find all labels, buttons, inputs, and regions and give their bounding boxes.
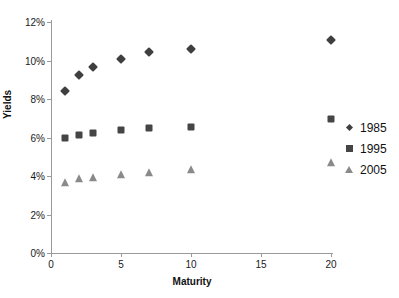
data-point-1995	[90, 129, 97, 136]
y-tick-label: 2%	[31, 209, 45, 220]
y-tick-mark	[47, 61, 51, 62]
y-tick-mark	[47, 22, 51, 23]
x-tick-mark	[191, 253, 192, 257]
y-tick-label: 0%	[31, 248, 45, 259]
data-point-1995	[118, 126, 125, 133]
data-point-2005	[89, 173, 97, 181]
y-tick-label: 4%	[31, 171, 45, 182]
scatter-chart: 0%2%4%6%8%10%12% 05101520 Yields Maturit…	[0, 0, 399, 298]
x-tick-mark	[51, 253, 52, 257]
y-tick-label: 12%	[25, 17, 45, 28]
data-point-1985	[186, 44, 196, 54]
data-point-1985	[60, 86, 70, 96]
legend: 198519952005	[343, 117, 387, 180]
plot-area: 0%2%4%6%8%10%12% 05101520	[51, 22, 331, 253]
y-tick-mark	[47, 215, 51, 216]
legend-swatch-shape	[345, 166, 353, 173]
data-point-1995	[62, 135, 69, 142]
y-axis-title: Yields	[2, 90, 13, 119]
x-tick-label: 15	[255, 259, 266, 270]
data-point-1995	[188, 123, 195, 130]
y-tick-mark	[47, 99, 51, 100]
data-point-1985	[326, 35, 336, 45]
x-tick-label: 0	[48, 259, 54, 270]
data-point-1985	[144, 47, 154, 57]
x-tick-mark	[261, 253, 262, 257]
y-tick-mark	[47, 176, 51, 177]
legend-item-1995[interactable]: 1995	[343, 138, 387, 159]
y-tick-label: 8%	[31, 94, 45, 105]
data-point-1995	[76, 131, 83, 138]
x-tick-mark	[331, 253, 332, 257]
data-point-1985	[74, 70, 84, 80]
legend-marker-triangle-icon	[343, 166, 355, 173]
legend-item-1985[interactable]: 1985	[343, 117, 387, 138]
x-axis-title: Maturity	[51, 276, 333, 287]
y-tick-label: 10%	[25, 55, 45, 66]
x-tick-mark	[121, 253, 122, 257]
data-point-2005	[145, 168, 153, 176]
legend-swatch-shape	[346, 145, 353, 152]
data-point-2005	[187, 165, 195, 173]
data-point-2005	[61, 178, 69, 186]
legend-swatch-shape	[345, 124, 352, 131]
data-point-1995	[328, 116, 335, 123]
y-tick-label: 6%	[31, 132, 45, 143]
data-point-2005	[75, 174, 83, 182]
x-tick-label: 20	[325, 259, 336, 270]
legend-label: 1985	[360, 121, 387, 135]
data-point-2005	[117, 170, 125, 178]
x-tick-label: 10	[185, 259, 196, 270]
legend-label: 2005	[360, 163, 387, 177]
legend-marker-diamond-icon	[343, 125, 355, 130]
legend-marker-square-icon	[343, 145, 355, 152]
data-point-2005	[327, 159, 335, 167]
legend-item-2005[interactable]: 2005	[343, 159, 387, 180]
x-tick-label: 5	[118, 259, 124, 270]
y-tick-mark	[47, 138, 51, 139]
legend-label: 1995	[360, 142, 387, 156]
data-point-1985	[116, 54, 126, 64]
data-point-1995	[146, 124, 153, 131]
data-point-1985	[88, 62, 98, 72]
x-axis-line	[51, 253, 333, 254]
